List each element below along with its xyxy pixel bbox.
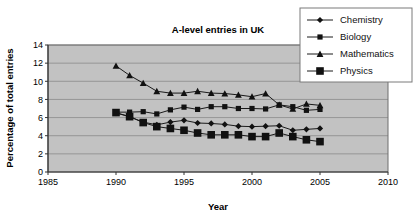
y-tick-6: 6 — [38, 113, 43, 123]
datapoint-physics-2004 — [303, 136, 311, 144]
a-level-entries-line-chart: 02468101214 198519901995200020052010 A-l… — [0, 0, 416, 215]
datapoint-physics-1991 — [126, 113, 134, 121]
legend-label-mathematics: Mathematics — [340, 48, 394, 59]
y-tick-2: 2 — [38, 149, 43, 159]
datapoint-physics-1990 — [112, 109, 120, 117]
datapoint-biology-1993 — [154, 111, 159, 116]
chart-legend: ChemistryBiologyMathematicsPhysics — [300, 8, 412, 82]
datapoint-physics-2001 — [262, 133, 270, 141]
datapoint-physics-2000 — [248, 133, 256, 141]
legend-label-physics: Physics — [340, 65, 373, 76]
x-tick-1995: 1995 — [174, 177, 194, 187]
datapoint-biology-1999 — [236, 106, 241, 111]
legend-label-biology: Biology — [340, 31, 371, 42]
datapoint-physics-1998 — [221, 131, 229, 139]
datapoint-physics-2003 — [289, 133, 297, 141]
datapoint-physics-1993 — [153, 123, 161, 131]
legend-marker-physics — [316, 67, 324, 75]
legend-label-chemistry: Chemistry — [340, 14, 383, 25]
y-tick-4: 4 — [38, 131, 43, 141]
x-axis-label: Year — [208, 201, 228, 212]
datapoint-biology-2004 — [304, 108, 309, 113]
y-tick-0: 0 — [38, 167, 43, 177]
x-tick-1985: 1985 — [38, 177, 58, 187]
y-tick-8: 8 — [38, 95, 43, 105]
x-tick-1990: 1990 — [106, 177, 126, 187]
x-tick-2000: 2000 — [242, 177, 262, 187]
datapoint-physics-1999 — [235, 131, 243, 139]
y-tick-12: 12 — [33, 58, 43, 68]
datapoint-physics-2002 — [275, 129, 283, 137]
datapoint-physics-1992 — [139, 119, 147, 127]
x-tick-2005: 2005 — [310, 177, 330, 187]
datapoint-biology-1994 — [168, 107, 173, 112]
datapoint-biology-1997 — [209, 104, 214, 109]
datapoint-biology-2001 — [263, 106, 268, 111]
datapoint-biology-2000 — [249, 106, 254, 111]
datapoint-physics-1997 — [207, 131, 215, 139]
y-tick-10: 10 — [33, 77, 43, 87]
datapoint-biology-1992 — [141, 109, 146, 114]
datapoint-biology-1995 — [181, 105, 186, 110]
datapoint-physics-2005 — [316, 138, 324, 146]
chart-title: A-level entries in UK — [172, 24, 265, 35]
datapoint-physics-1996 — [194, 129, 202, 137]
datapoint-biology-1996 — [195, 107, 200, 112]
legend-marker-biology — [317, 34, 322, 39]
y-axis-label: Percentage of total entries — [4, 48, 15, 167]
datapoint-biology-1998 — [222, 104, 227, 109]
x-tick-2010: 2010 — [378, 177, 398, 187]
datapoint-physics-1994 — [167, 125, 175, 133]
chart-container: 02468101214 198519901995200020052010 A-l… — [0, 0, 416, 215]
y-tick-14: 14 — [33, 40, 43, 50]
datapoint-physics-1995 — [180, 126, 188, 134]
